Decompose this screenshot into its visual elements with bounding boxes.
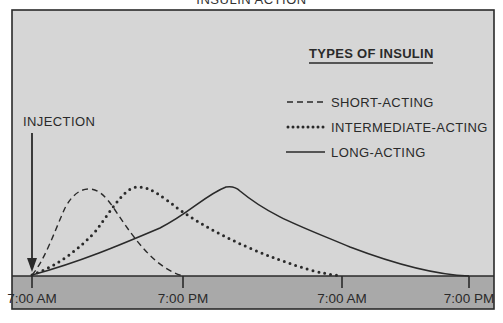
- x-tick-label-4: 7:00 PM: [444, 291, 494, 306]
- x-tick-label-1: 7:00 AM: [7, 291, 57, 306]
- chart-canvas: 7:00 AM 7:00 PM 7:00 AM 7:00 PM INJECTIO…: [0, 0, 503, 323]
- legend-label-intermediate: INTERMEDIATE-ACTING: [331, 120, 488, 135]
- x-tick-label-2: 7:00 PM: [158, 291, 208, 306]
- x-tick-label-3: 7:00 AM: [317, 291, 367, 306]
- legend-label-short: SHORT-ACTING: [331, 95, 434, 110]
- legend-title: TYPES OF INSULIN: [309, 46, 434, 61]
- legend-label-long: LONG-ACTING: [331, 145, 426, 160]
- time-axis-band: [12, 276, 494, 309]
- injection-label: INJECTION: [23, 114, 95, 129]
